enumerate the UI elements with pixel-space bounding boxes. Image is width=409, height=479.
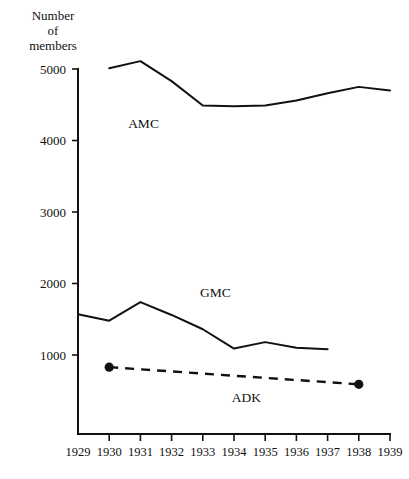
x-axis-tick-label: 1935 xyxy=(253,445,278,459)
data-series-layer xyxy=(78,61,390,389)
x-axis-tick-marks xyxy=(109,434,390,441)
series-label-amc: AMC xyxy=(128,116,159,131)
series-label-gmc: GMC xyxy=(200,285,231,300)
y-axis-tick-label: 4000 xyxy=(40,133,66,148)
y-axis-tick-labels: 10002000300040005000 xyxy=(40,62,66,363)
x-axis-tick-label: 1933 xyxy=(190,445,215,459)
series-line-gmc xyxy=(78,302,328,349)
x-axis-tick-label: 1939 xyxy=(378,445,403,459)
series-endpoint-marker-adk xyxy=(105,363,114,372)
x-axis-tick-label: 1938 xyxy=(346,445,371,459)
y-axis-tick-label: 3000 xyxy=(40,205,66,220)
x-axis-tick-label: 1932 xyxy=(159,445,184,459)
y-axis-tick-label: 1000 xyxy=(40,348,66,363)
x-axis-tick-labels: 1929193019311932193319341935193619371938… xyxy=(66,445,403,459)
x-axis-tick-label: 1931 xyxy=(128,445,153,459)
x-axis-tick-label: 1934 xyxy=(222,445,248,459)
series-label-adk: ADK xyxy=(232,390,261,405)
y-axis-tick-label: 5000 xyxy=(40,62,66,77)
series-line-adk xyxy=(109,367,359,384)
line-chart-plot: 10002000300040005000 1929193019311932193… xyxy=(0,0,409,479)
series-annotations: AMCGMCADK xyxy=(128,116,261,406)
x-axis-tick-label: 1936 xyxy=(284,445,309,459)
x-axis-tick-label: 1929 xyxy=(66,445,91,459)
series-line-amc xyxy=(109,61,390,106)
x-axis-tick-label: 1930 xyxy=(97,445,122,459)
series-endpoint-marker-adk xyxy=(354,380,363,389)
x-axis-tick-label: 1937 xyxy=(315,445,340,459)
chart-container: Number of members 10002000300040005000 1… xyxy=(0,0,409,479)
y-axis-tick-label: 2000 xyxy=(40,276,66,291)
